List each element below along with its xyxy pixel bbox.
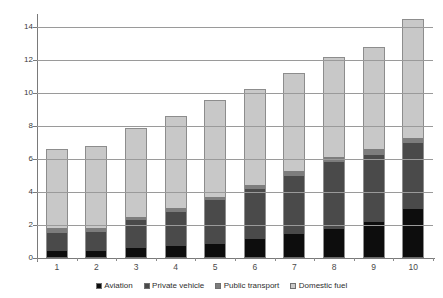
- bar-stack[interactable]: [165, 116, 187, 258]
- bar-segment[interactable]: [402, 209, 424, 258]
- x-axis-tick-mark: [37, 258, 38, 261]
- legend-label: Domestic fuel: [299, 281, 347, 290]
- y-axis-tick-label: 14: [7, 23, 33, 31]
- x-axis-tick-label: 6: [240, 262, 270, 272]
- chart-legend: AviationPrivate vehiclePublic transportD…: [0, 281, 443, 290]
- x-axis-tick-mark: [354, 258, 355, 261]
- y-axis-tick-label: 10: [7, 89, 33, 97]
- y-axis-tick-mark: [33, 126, 37, 127]
- bar-segment[interactable]: [363, 47, 385, 149]
- bar-segment[interactable]: [244, 239, 266, 258]
- legend-swatch-icon: [215, 283, 221, 289]
- gridline: [37, 126, 433, 127]
- x-axis-tick-mark: [235, 258, 236, 261]
- y-axis-tick-label: 2: [7, 221, 33, 229]
- y-axis-tick-mark: [33, 27, 37, 28]
- y-axis-tick-mark: [33, 192, 37, 193]
- x-axis-tick-mark: [195, 258, 196, 261]
- x-axis-tick-mark: [156, 258, 157, 261]
- legend-item[interactable]: Domestic fuel: [290, 281, 347, 290]
- bar-segment[interactable]: [46, 149, 68, 228]
- bar-segment[interactable]: [85, 232, 107, 252]
- bar-segment[interactable]: [402, 19, 424, 138]
- y-axis-tick-label: 0: [7, 254, 33, 262]
- x-axis-tick-label: 9: [359, 262, 389, 272]
- x-axis-tick-label: 2: [81, 262, 111, 272]
- x-axis-tick-mark: [314, 258, 315, 261]
- x-axis-tick-label: 8: [319, 262, 349, 272]
- bar-segment[interactable]: [323, 57, 345, 158]
- x-axis-tick-mark: [275, 258, 276, 261]
- x-axis-tick-label: 7: [279, 262, 309, 272]
- x-axis-tick-label: 5: [200, 262, 230, 272]
- legend-label: Public transport: [224, 281, 280, 290]
- x-axis-tick-mark: [77, 258, 78, 261]
- x-axis-tick-mark: [433, 258, 434, 261]
- y-axis-tick-mark: [33, 93, 37, 94]
- x-axis-tick-label: 1: [42, 262, 72, 272]
- bar-segment[interactable]: [46, 251, 68, 258]
- y-axis-tick-label: 8: [7, 122, 33, 130]
- legend-swatch-icon: [290, 283, 296, 289]
- y-axis-tick-label: 4: [7, 188, 33, 196]
- gridline: [37, 93, 433, 94]
- legend-label: Private vehicle: [152, 281, 204, 290]
- bar-segment[interactable]: [244, 89, 266, 185]
- bar-stack[interactable]: [402, 19, 424, 258]
- bar-segment[interactable]: [402, 143, 424, 209]
- bar-stack[interactable]: [46, 149, 68, 258]
- x-axis-tick-label: 4: [161, 262, 191, 272]
- bar-segment[interactable]: [85, 251, 107, 258]
- bar-segment[interactable]: [46, 233, 68, 250]
- legend-item[interactable]: Public transport: [215, 281, 279, 290]
- bar-stack[interactable]: [244, 89, 266, 258]
- y-axis-labels: 02468101214: [0, 0, 33, 298]
- gridline: [37, 60, 433, 61]
- bar-segment[interactable]: [363, 222, 385, 258]
- x-axis-tick-label: 3: [121, 262, 151, 272]
- bar-segment[interactable]: [283, 234, 305, 258]
- bars-layer: [37, 14, 433, 258]
- bar-stack[interactable]: [85, 146, 107, 258]
- bar-segment[interactable]: [204, 200, 226, 244]
- bar-segment[interactable]: [204, 100, 226, 197]
- bar-segment[interactable]: [204, 244, 226, 258]
- bar-stack[interactable]: [204, 100, 226, 258]
- gridline: [37, 159, 433, 160]
- legend-swatch-icon: [144, 283, 150, 289]
- stacked-bar-chart: 02468101214 AviationPrivate vehiclePubli…: [0, 0, 443, 298]
- bar-segment[interactable]: [323, 162, 345, 230]
- legend-swatch-icon: [96, 283, 102, 289]
- bar-stack[interactable]: [323, 57, 345, 258]
- legend-item[interactable]: Aviation: [96, 281, 133, 290]
- x-axis-line: [33, 258, 435, 259]
- bar-segment[interactable]: [125, 128, 147, 217]
- legend-item[interactable]: Private vehicle: [144, 281, 205, 290]
- bar-segment[interactable]: [363, 155, 385, 222]
- bar-segment[interactable]: [165, 246, 187, 258]
- y-axis-tick-mark: [33, 159, 37, 160]
- bar-segment[interactable]: [323, 229, 345, 258]
- bar-segment[interactable]: [165, 116, 187, 208]
- y-axis-tick-label: 6: [7, 155, 33, 163]
- bar-segment[interactable]: [283, 73, 305, 171]
- x-axis-tick-mark: [393, 258, 394, 261]
- x-axis-tick-mark: [116, 258, 117, 261]
- y-axis-tick-label: 12: [7, 56, 33, 64]
- plot-area: [37, 14, 433, 258]
- bar-stack[interactable]: [283, 73, 305, 258]
- x-axis-tick-label: 10: [398, 262, 428, 272]
- gridline: [37, 225, 433, 226]
- bar-segment[interactable]: [165, 212, 187, 246]
- bar-stack[interactable]: [363, 47, 385, 258]
- legend-label: Aviation: [104, 281, 132, 290]
- gridline: [37, 192, 433, 193]
- y-axis-tick-mark: [33, 225, 37, 226]
- y-axis-tick-mark: [33, 60, 37, 61]
- bar-segment[interactable]: [125, 248, 147, 258]
- gridline: [37, 27, 433, 28]
- bar-segment[interactable]: [244, 189, 266, 239]
